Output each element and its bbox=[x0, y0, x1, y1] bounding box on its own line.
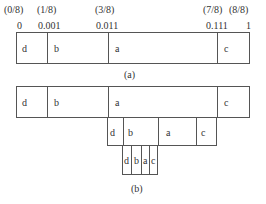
interval-bar-a: d b a c bbox=[16, 32, 250, 64]
segment-b: b bbox=[47, 87, 108, 117]
segment-b: b bbox=[131, 146, 141, 174]
segment-label: c bbox=[151, 155, 155, 166]
fraction-label-1: (1/8) bbox=[37, 5, 56, 15]
binary-label-3: 0.111 bbox=[206, 21, 228, 31]
segment-c: c bbox=[217, 33, 249, 63]
fraction-label-4: (8/8) bbox=[229, 5, 248, 15]
caption-b: (b) bbox=[131, 183, 143, 194]
segment-b: b bbox=[123, 118, 158, 145]
segment-label: c bbox=[224, 43, 228, 54]
segment-a: a bbox=[141, 146, 149, 174]
binary-label-0: 0 bbox=[17, 21, 22, 31]
segment-label: d bbox=[124, 155, 129, 166]
segment-label: d bbox=[22, 97, 27, 108]
interval-bar-b-level1: d b a c bbox=[16, 86, 250, 118]
segment-label: d bbox=[110, 126, 115, 137]
segment-b: b bbox=[47, 33, 108, 63]
segment-label: b bbox=[54, 97, 59, 108]
binary-label-2: 0.011 bbox=[96, 21, 118, 31]
segment-a: a bbox=[158, 118, 196, 145]
segment-label: c bbox=[201, 126, 205, 137]
segment-c: c bbox=[217, 87, 249, 117]
segment-d: d bbox=[16, 33, 47, 63]
fraction-label-3: (7/8) bbox=[203, 5, 222, 15]
segment-label: b bbox=[54, 43, 59, 54]
binary-label-4: 1 bbox=[246, 21, 251, 31]
segment-d: d bbox=[122, 146, 131, 174]
caption-a: (a) bbox=[124, 69, 135, 80]
fraction-label-0: (0/8) bbox=[4, 5, 23, 15]
interval-bar-b-level3: d b a c bbox=[122, 145, 158, 175]
segment-c: c bbox=[196, 118, 216, 145]
segment-label: a bbox=[143, 155, 147, 166]
segment-label: b bbox=[134, 155, 139, 166]
segment-label: a bbox=[115, 43, 119, 54]
segment-label: a bbox=[166, 126, 170, 137]
interval-bar-b-level2: d b a c bbox=[107, 117, 217, 146]
segment-a: a bbox=[108, 87, 217, 117]
segment-d: d bbox=[107, 118, 123, 145]
segment-label: a bbox=[115, 97, 119, 108]
fraction-label-2: (3/8) bbox=[95, 5, 114, 15]
segment-c: c bbox=[149, 146, 157, 174]
segment-label: d bbox=[22, 43, 27, 54]
segment-label: b bbox=[128, 126, 133, 137]
segment-label: c bbox=[224, 97, 228, 108]
binary-label-1: 0.001 bbox=[38, 21, 61, 31]
segment-d: d bbox=[16, 87, 47, 117]
segment-a: a bbox=[108, 33, 217, 63]
